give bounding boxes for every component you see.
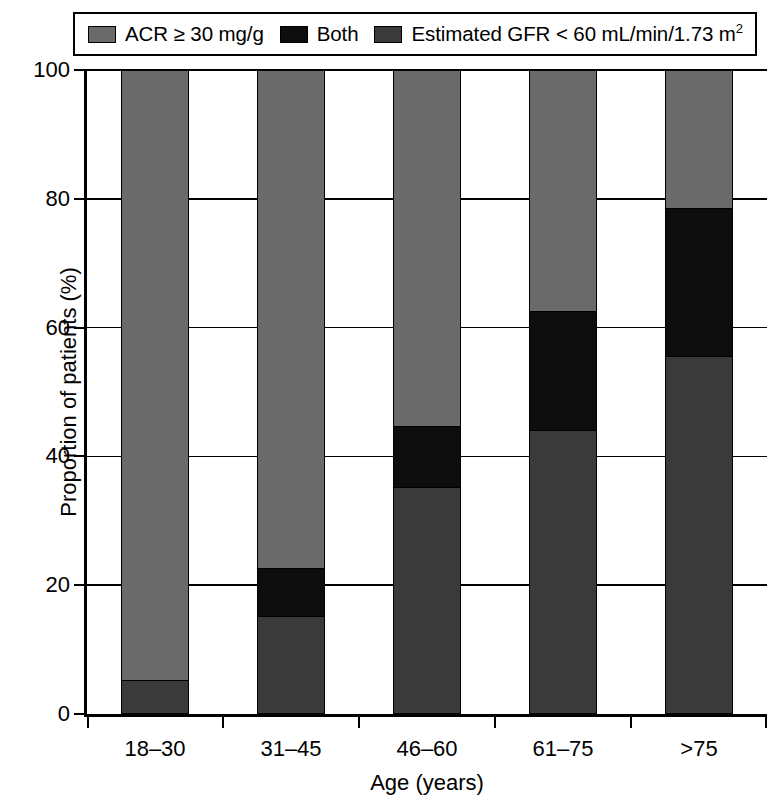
legend-swatch-both: [280, 26, 308, 43]
y-tick-80: [74, 198, 87, 200]
plot-inner: 02040608010018–3031–4546–6061–75>75: [87, 70, 767, 714]
bar-segment-gfr: [394, 488, 460, 713]
legend-swatch-gfr: [374, 26, 402, 43]
plot-area: 02040608010018–3031–4546–6061–75>75 Prop…: [84, 70, 767, 717]
legend-item-acr: ACR ≥ 30 mg/g: [88, 24, 264, 45]
y-tick-label-20: 20: [46, 572, 70, 598]
x-tick-label-18–30: 18–30: [124, 736, 185, 762]
legend-label-both: Both: [317, 24, 359, 45]
x-tick-4: [630, 714, 632, 728]
bar-segment-acr: [394, 71, 460, 427]
x-axis-title: Age (years): [370, 770, 484, 796]
bar-segment-acr: [666, 71, 732, 209]
bar-31–45[interactable]: [257, 70, 325, 714]
legend-label-acr: ACR ≥ 30 mg/g: [125, 24, 264, 45]
legend-label-gfr: Estimated GFR < 60 mL/min/1.73 m2: [411, 24, 743, 45]
bar-61–75[interactable]: [529, 70, 597, 714]
chart-legend: ACR ≥ 30 mg/g Both Estimated GFR < 60 mL…: [73, 12, 757, 56]
bar-segment-gfr: [666, 357, 732, 713]
y-tick-20: [74, 584, 87, 586]
y-tick-label-80: 80: [46, 186, 70, 212]
bar-46–60[interactable]: [393, 70, 461, 714]
legend-item-both: Both: [280, 24, 359, 45]
bar-segment-both: [666, 209, 732, 357]
bar->75[interactable]: [665, 70, 733, 714]
x-tick-label-31–45: 31–45: [260, 736, 321, 762]
x-tick-3: [494, 714, 496, 728]
bar-segment-gfr: [258, 617, 324, 713]
x-tick-1: [222, 714, 224, 728]
legend-item-gfr: Estimated GFR < 60 mL/min/1.73 m2: [374, 24, 743, 45]
bar-segment-both: [530, 312, 596, 431]
bar-segment-gfr: [530, 431, 596, 713]
bar-segment-acr: [122, 71, 188, 681]
x-tick-2: [358, 714, 360, 728]
bar-18–30[interactable]: [121, 70, 189, 714]
bar-segment-both: [258, 569, 324, 617]
x-tick-label-61–75: 61–75: [532, 736, 593, 762]
y-tick-label-100: 100: [33, 57, 70, 83]
x-tick-label-46–60: 46–60: [396, 736, 457, 762]
bar-segment-gfr: [122, 681, 188, 713]
x-tick-edge-0: [87, 714, 89, 728]
bar-segment-acr: [530, 71, 596, 312]
legend-swatch-acr: [88, 26, 116, 43]
y-tick-label-0: 0: [58, 701, 70, 727]
y-tick-100: [74, 69, 87, 71]
bar-segment-both: [394, 427, 460, 488]
y-tick-0: [74, 713, 87, 715]
bar-segment-acr: [258, 71, 324, 569]
legend-label-gfr-text: Estimated GFR < 60 mL/min/1.73 m: [411, 22, 735, 45]
y-axis-title: Proportion of patients (%): [56, 267, 82, 516]
x-tick-label->75: >75: [680, 736, 717, 762]
legend-label-gfr-superscript: 2: [736, 21, 743, 36]
